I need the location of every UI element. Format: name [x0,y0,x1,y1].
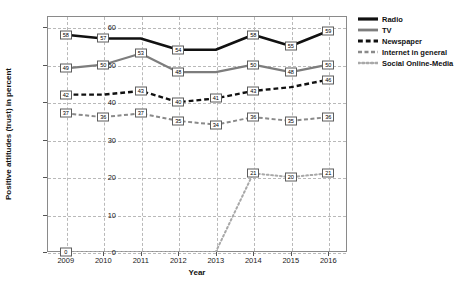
legend-item[interactable]: Newspaper [358,36,453,46]
y-axis-tick-label: 20 [76,173,116,182]
y-axis-tick-label: 30 [76,135,116,144]
x-axis-tick-mark [328,252,329,256]
legend-item[interactable]: Internet in general [358,47,453,57]
data-point-label: 41 [210,94,222,103]
y-axis-tick-mark [43,140,47,141]
y-axis-tick-mark [43,27,47,28]
legend-label: Radio [382,15,403,24]
data-point-label: 59 [322,26,334,35]
data-point-label: 43 [247,86,259,95]
x-axis-tick-mark [178,252,179,256]
y-axis-tick-label: 40 [76,98,116,107]
x-axis-tick-label: 2011 [121,256,161,265]
legend-label: TV [382,26,392,35]
legend-swatch-icon [358,14,378,24]
data-point-label: 49 [60,64,72,73]
x-axis-tick-mark [103,252,104,256]
data-point-label: 40 [172,98,184,107]
x-axis-tick-label: 2009 [46,256,86,265]
data-point-label: 35 [285,116,297,125]
x-axis-tick-label: 2015 [271,256,311,265]
data-point-label: 50 [247,60,259,69]
chart-container: 0102030405060200920102011201220132014201… [0,0,468,292]
data-point-label: 36 [247,113,259,122]
data-point-label: 37 [135,109,147,118]
data-point-label: 58 [247,30,259,39]
y-axis-tick-mark [43,65,47,66]
data-point-label: 21 [247,169,259,178]
legend-label: Social Online-Media [382,59,453,68]
y-axis-tick-mark [43,215,47,216]
data-point-label: 37 [60,109,72,118]
data-point-label: 42 [60,90,72,99]
legend-item[interactable]: Radio [358,14,453,24]
data-point-label: 54 [172,45,184,54]
data-point-label: 46 [322,75,334,84]
data-point-label: 21 [322,169,334,178]
data-point-label: 53 [135,49,147,58]
y-axis-tick-mark [43,102,47,103]
y-axis-tick-label: 60 [76,23,116,32]
x-axis-tick-mark [253,252,254,256]
x-axis-tick-mark [216,252,217,256]
legend-swatch-icon [358,58,378,68]
x-axis-tick-label: 2010 [83,256,123,265]
data-point-label: 48 [172,68,184,77]
chart-legend: RadioTVNewspaperInternet in generalSocia… [358,14,453,69]
data-point-label: 57 [97,34,109,43]
legend-label: Newspaper [382,37,422,46]
data-point-label: 43 [135,86,147,95]
data-point-label: 20 [285,173,297,182]
data-point-label: 36 [97,113,109,122]
legend-label: Internet in general [382,48,447,57]
y-axis-tick-label: 50 [76,60,116,69]
data-point-label: 50 [322,60,334,69]
legend-swatch-icon [358,36,378,46]
x-axis-title: Year [47,268,347,277]
y-axis-tick-mark [43,252,47,253]
x-axis-tick-label: 2016 [308,256,348,265]
data-point-label: 35 [172,116,184,125]
data-point-label: 50 [97,60,109,69]
y-axis-tick-label: 10 [76,210,116,219]
x-axis-tick-mark [141,252,142,256]
data-point-label: 58 [60,30,72,39]
x-axis-tick-label: 2013 [196,256,236,265]
x-axis-tick-label: 2012 [158,256,198,265]
legend-item[interactable]: Social Online-Media [358,58,453,68]
legend-swatch-icon [358,25,378,35]
data-point-label: 34 [210,120,222,129]
legend-item[interactable]: TV [358,25,453,35]
x-axis-tick-label: 2014 [233,256,273,265]
legend-swatch-icon [358,47,378,57]
data-point-label: 55 [285,41,297,50]
data-point-label: 48 [285,68,297,77]
data-point-label: 36 [322,113,334,122]
y-axis-tick-mark [43,177,47,178]
x-axis-tick-mark [291,252,292,256]
y-axis-title: Positive attitudes (trust) in percent [4,68,13,200]
data-point-label: 0 [60,248,72,257]
